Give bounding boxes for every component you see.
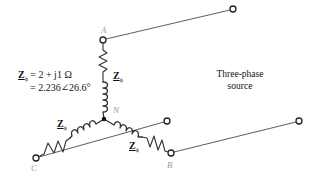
impedance-value: = 2 + j1 Ω	[30, 69, 72, 80]
source-terminal-b	[296, 118, 302, 124]
phase-a-branch	[99, 44, 108, 119]
phase-a-inductor	[103, 82, 108, 119]
terminal-a	[100, 37, 106, 43]
node-label-a: A	[101, 25, 107, 36]
neutral-node	[102, 117, 106, 121]
phase-c-resistor	[40, 138, 70, 156]
phase-b-inductor	[104, 119, 142, 137]
branch-label-c: Zϕ	[57, 118, 67, 134]
line-a	[106, 10, 230, 39]
phase-b-resistor	[142, 136, 168, 152]
phase-c-branch	[40, 119, 104, 156]
terminal-c	[33, 155, 39, 161]
branch-label-b: Zϕ	[129, 140, 139, 156]
phase-c-inductor	[70, 119, 104, 138]
source-label-line2: source	[205, 80, 275, 92]
terminal-b	[168, 150, 174, 156]
node-label-b: B	[167, 160, 173, 171]
source-label-line1: Three-phase	[205, 68, 275, 80]
source-terminal-a	[230, 6, 236, 12]
node-label-c: C	[31, 163, 37, 174]
node-label-n: N	[113, 105, 119, 116]
phase-a-resistor	[99, 44, 107, 82]
source-label: Three-phase source	[205, 68, 275, 92]
line-b	[174, 122, 296, 152]
impedance-symbol: Zϕ	[18, 69, 28, 80]
impedance-polar-value: = 2.236∠26.6°	[30, 82, 91, 93]
source-terminal-c	[164, 118, 170, 124]
branch-label-a: Zϕ	[113, 70, 123, 86]
